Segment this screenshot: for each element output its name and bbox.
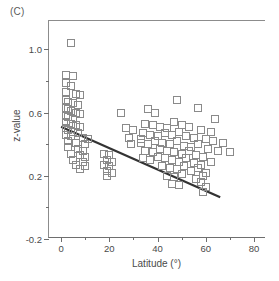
x-tick-label: 40: [152, 243, 163, 254]
panel-label: (C): [10, 6, 24, 17]
data-point-marker: [151, 109, 159, 117]
y-tick-label: -0.2: [26, 234, 42, 245]
data-point-marker: [76, 110, 84, 118]
plot-frame: -0.20.20.61.0 020406080: [48, 20, 265, 238]
y-tick: [44, 239, 49, 240]
data-point-marker: [69, 72, 77, 80]
x-minor-tick: [230, 237, 231, 240]
x-axis-title: Latitude (°): [48, 258, 265, 269]
data-point-marker: [207, 158, 215, 166]
y-tick-label: 0.2: [29, 170, 42, 181]
y-tick-label: 0.6: [29, 107, 42, 118]
x-tick-label: 0: [58, 243, 63, 254]
data-point-marker: [209, 137, 217, 145]
data-point-marker: [103, 172, 111, 180]
data-point-marker: [74, 101, 82, 109]
data-point-marker: [173, 96, 181, 104]
data-point-marker: [175, 181, 183, 189]
data-point-marker: [214, 147, 222, 155]
x-tick: [109, 237, 110, 242]
data-point-marker: [129, 126, 137, 134]
y-tick-label: 1.0: [29, 44, 42, 55]
x-tick: [254, 237, 255, 242]
data-point-marker: [178, 170, 186, 178]
plot-area: [49, 21, 265, 237]
scatter-plot-figure: (C) -0.20.20.61.0 020406080 Latitude (°)…: [0, 0, 279, 281]
x-minor-tick: [182, 237, 183, 240]
data-point-marker: [199, 188, 207, 196]
x-tick: [158, 237, 159, 242]
x-tick: [61, 237, 62, 242]
data-point-marker: [194, 140, 202, 148]
y-minor-tick: [46, 81, 49, 82]
data-point-marker: [127, 140, 135, 148]
data-point-marker: [117, 109, 125, 117]
data-point-marker: [144, 105, 152, 113]
x-tick-label: 60: [200, 243, 211, 254]
data-point-marker: [211, 115, 219, 123]
data-point-marker: [185, 123, 193, 131]
x-tick-label: 20: [104, 243, 115, 254]
y-tick: [44, 113, 49, 114]
data-point-marker: [197, 126, 205, 134]
data-point-marker: [226, 148, 234, 156]
data-point-marker: [76, 91, 84, 99]
x-tick-label: 80: [249, 243, 260, 254]
y-minor-tick: [46, 207, 49, 208]
x-minor-tick: [85, 237, 86, 240]
data-point-marker: [62, 88, 70, 96]
data-point-marker: [76, 165, 84, 173]
data-point-marker: [67, 39, 75, 47]
data-point-marker: [194, 104, 202, 112]
y-tick: [44, 176, 49, 177]
data-point-marker: [207, 128, 215, 136]
y-tick: [44, 49, 49, 50]
y-minor-tick: [46, 144, 49, 145]
data-point-marker: [219, 139, 227, 147]
data-point-marker: [204, 145, 212, 153]
y-axis-title: z-value: [11, 96, 22, 156]
x-tick: [206, 237, 207, 242]
x-minor-tick: [133, 237, 134, 240]
